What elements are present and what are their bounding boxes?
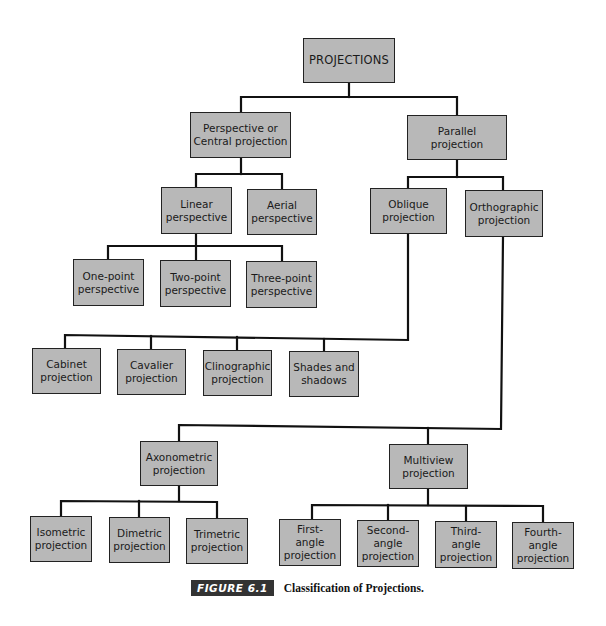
node-one-point-perspective: One-point perspective bbox=[73, 259, 144, 306]
node-orthographic-projection: Orthographic projection bbox=[465, 190, 543, 237]
node-trimetric-projection: Trimetric projection bbox=[186, 518, 248, 564]
node-isometric-projection: Isometric projection bbox=[30, 516, 92, 562]
node-fourth-angle-projection: Fourth- angle projection bbox=[512, 522, 574, 569]
node-third-angle-projection: Third- angle projection bbox=[435, 521, 497, 568]
node-first-angle-projection: First- angle projection bbox=[279, 519, 341, 566]
node-two-point-perspective: Two-point perspective bbox=[160, 260, 231, 307]
node-linear-perspective: Linear perspective bbox=[161, 187, 232, 234]
node-dimetric-projection: Dimetric projection bbox=[109, 517, 170, 563]
node-oblique-projection: Oblique projection bbox=[370, 188, 447, 234]
figure-caption-text: Classification of Projections. bbox=[284, 582, 424, 594]
node-second-angle-projection: Second- angle projection bbox=[357, 520, 419, 567]
node-cavalier-projection: Cavalier projection bbox=[117, 349, 186, 395]
node-cabinet-projection: Cabinet projection bbox=[32, 348, 101, 394]
node-perspective-projection: Perspective or Central projection bbox=[190, 112, 291, 158]
node-axonometric-projection: Axonometric projection bbox=[140, 441, 218, 486]
node-shades-and-shadows: Shades and shadows bbox=[289, 351, 359, 397]
node-multiview-projection: Multiview projection bbox=[389, 444, 468, 489]
figure-caption: FIGURE 6.1 Classification of Projections… bbox=[191, 580, 424, 596]
figure-label-badge: FIGURE 6.1 bbox=[191, 580, 274, 596]
node-parallel-projection: Parallel projection bbox=[407, 115, 507, 160]
node-three-point-perspective: Three-point perspective bbox=[246, 261, 317, 308]
node-projections: PROJECTIONS bbox=[303, 38, 395, 83]
node-aerial-perspective: Aerial perspective bbox=[247, 189, 317, 235]
node-clinographic-projection: Clinographic projection bbox=[203, 350, 272, 396]
